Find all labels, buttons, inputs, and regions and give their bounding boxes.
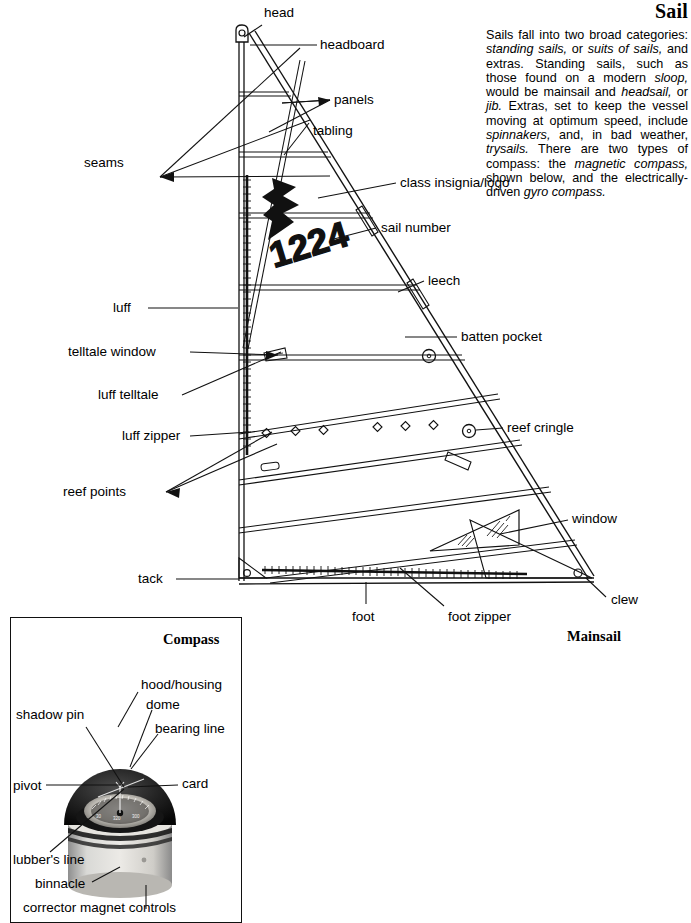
label-foot-zipper: foot zipper xyxy=(448,609,511,624)
label-luff-zipper: luff zipper xyxy=(122,428,180,443)
label-seams: seams xyxy=(84,155,124,170)
leader-lines xyxy=(148,25,606,606)
reef-point-grommets xyxy=(262,421,438,438)
label-luff-telltale: luff telltale xyxy=(98,387,159,402)
headboard-shape xyxy=(236,25,248,42)
label-pivot: pivot xyxy=(13,778,42,793)
label-dome: dome xyxy=(146,697,180,712)
label-hood-housing: hood/housing xyxy=(141,677,222,692)
label-reef-cringle: reef cringle xyxy=(507,420,574,435)
label-sail-number: sail number xyxy=(381,220,451,235)
label-headboard: headboard xyxy=(320,37,385,52)
mainsail-caption: Mainsail xyxy=(567,628,621,645)
reef-cringle-grommet xyxy=(463,425,476,438)
label-shadow-pin: shadow pin xyxy=(16,707,84,722)
label-panels: panels xyxy=(334,92,374,107)
label-reef-points: reef points xyxy=(63,484,126,499)
label-tabling: tabling xyxy=(313,123,353,138)
label-window: window xyxy=(572,511,617,526)
window-panel xyxy=(430,510,519,551)
label-luff: luff xyxy=(113,300,131,315)
label-foot: foot xyxy=(352,609,375,624)
label-lubbers-line: lubber's line xyxy=(13,852,85,867)
label-binnacle: binnacle xyxy=(35,876,85,891)
label-telltale-window: telltale window xyxy=(68,344,156,359)
head-grommet xyxy=(239,30,245,36)
label-tack: tack xyxy=(138,571,163,586)
label-head: head xyxy=(264,5,294,20)
leech-cringle xyxy=(423,350,436,363)
label-leech: leech xyxy=(428,273,460,288)
label-card: card xyxy=(182,776,208,791)
label-bearing-line: bearing line xyxy=(155,721,225,736)
clew-patch xyxy=(470,520,592,578)
label-class-insignia: class insignia/logo xyxy=(400,175,510,190)
tack-patch xyxy=(239,558,266,578)
label-batten-pocket: batten pocket xyxy=(461,329,542,344)
label-clew: clew xyxy=(611,592,638,607)
label-corrector-magnet-controls: corrector magnet controls xyxy=(23,900,176,915)
